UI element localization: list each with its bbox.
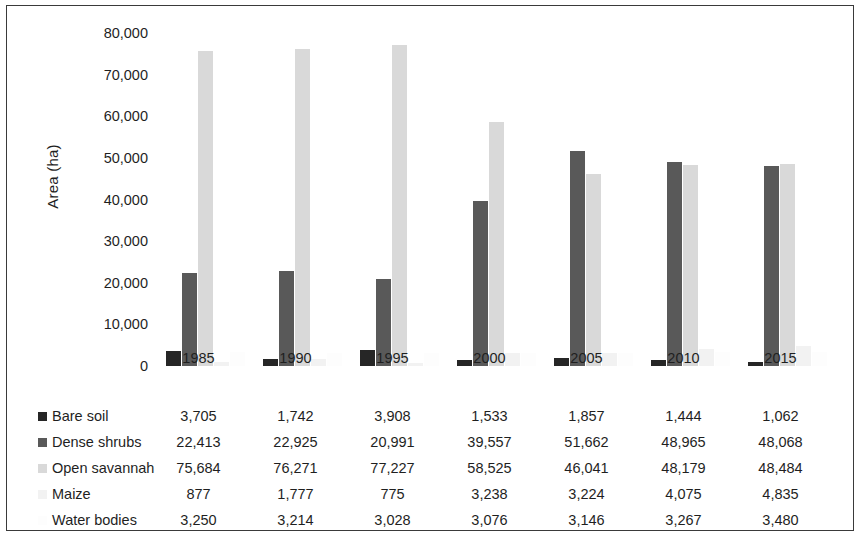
x-axis-tick-label: 2010 (635, 350, 732, 366)
legend-swatch-icon (38, 412, 47, 421)
bar-group: 1990 (247, 26, 344, 366)
bar (667, 162, 682, 366)
legend-entry: Open savannah (0, 455, 150, 481)
table-cell-value: 3,224 (538, 486, 635, 502)
table-cell-value: 3,238 (441, 486, 538, 502)
y-axis-tick-label: 30,000 (58, 233, 148, 249)
table-row: Dense shrubs22,41322,92520,99139,55751,6… (0, 429, 860, 455)
table-cell-value: 3,146 (538, 512, 635, 528)
table-cell-value: 775 (344, 486, 441, 502)
table-cell-value: 1,742 (247, 408, 344, 424)
table-cell-value: 48,965 (635, 434, 732, 450)
bar-group-bars (150, 41, 247, 366)
x-axis-tick-label: 1995 (344, 350, 441, 366)
legend-swatch-icon (38, 464, 47, 473)
table-cell-value: 3,480 (732, 512, 829, 528)
legend-entry: Maize (0, 481, 150, 507)
series-label: Dense shrubs (34, 434, 141, 450)
chart-figure: Area (ha) 80,00070,00060,00050,00040,000… (0, 0, 860, 538)
table-row: Bare soil3,7051,7423,9081,5331,8571,4441… (0, 403, 860, 429)
y-axis-tick-label: 80,000 (58, 25, 148, 41)
bar-group: 2005 (538, 26, 635, 366)
table-cell-value: 22,925 (247, 434, 344, 450)
bar-group: 2015 (732, 26, 829, 366)
legend-entry: Bare soil (0, 403, 150, 429)
table-cell-value: 1,533 (441, 408, 538, 424)
y-axis-tick-label: 0 (58, 358, 148, 374)
y-axis-tick-label: 20,000 (58, 275, 148, 291)
y-axis-tick-label: 10,000 (58, 316, 148, 332)
table-cell-value: 3,076 (441, 512, 538, 528)
bar (683, 165, 698, 366)
legend-swatch-icon (38, 490, 47, 499)
table-row: Open savannah75,68476,27177,22758,52546,… (0, 455, 860, 481)
bar-group-bars (635, 41, 732, 366)
bar-group-bars (344, 41, 441, 366)
table-cell-value: 20,991 (344, 434, 441, 450)
bar-group: 2010 (635, 26, 732, 366)
legend-entry: Dense shrubs (0, 429, 150, 455)
table-cell-value: 22,413 (150, 434, 247, 450)
x-axis-tick-label: 2000 (441, 350, 538, 366)
table-cell-value: 77,227 (344, 460, 441, 476)
table-cell-value: 877 (150, 486, 247, 502)
legend-entry: Water bodies (0, 507, 150, 533)
bar-group-bars (538, 41, 635, 366)
bar (392, 45, 407, 366)
bar (780, 164, 795, 366)
x-axis-tick-label: 2015 (732, 350, 829, 366)
legend-swatch-icon (38, 516, 47, 525)
plot-area: Area (ha) 80,00070,00060,00050,00040,000… (0, 0, 860, 390)
data-table: Bare soil3,7051,7423,9081,5331,8571,4441… (0, 390, 860, 538)
y-axis-ticks: 80,00070,00060,00050,00040,00030,00020,0… (58, 0, 148, 390)
table-cell-value: 51,662 (538, 434, 635, 450)
bar (198, 51, 213, 366)
table-cell-value: 76,271 (247, 460, 344, 476)
series-label: Open savannah (34, 460, 154, 476)
x-axis-tick-label: 1990 (247, 350, 344, 366)
table-row: Maize8771,7777753,2383,2244,0754,835 (0, 481, 860, 507)
table-cell-value: 3,214 (247, 512, 344, 528)
table-cell-value: 4,835 (732, 486, 829, 502)
bar-group-bars (247, 41, 344, 366)
bar-groups: 1985199019952000200520102015 (150, 0, 850, 390)
table-cell-value: 58,525 (441, 460, 538, 476)
bar (764, 166, 779, 366)
table-cell-value: 1,444 (635, 408, 732, 424)
bar (586, 174, 601, 366)
y-axis-tick-label: 70,000 (58, 67, 148, 83)
table-cell-value: 39,557 (441, 434, 538, 450)
y-axis-tick-label: 50,000 (58, 150, 148, 166)
bar (570, 151, 585, 366)
table-cell-value: 48,484 (732, 460, 829, 476)
table-row: Water bodies3,2503,2143,0283,0763,1463,2… (0, 507, 860, 533)
bar (295, 49, 310, 366)
y-axis-tick-label: 40,000 (58, 192, 148, 208)
table-cell-value: 3,028 (344, 512, 441, 528)
table-cell-value: 3,250 (150, 512, 247, 528)
table-cell-value: 3,267 (635, 512, 732, 528)
table-cell-value: 75,684 (150, 460, 247, 476)
bar (473, 201, 488, 366)
table-cell-value: 48,068 (732, 434, 829, 450)
table-cell-value: 48,179 (635, 460, 732, 476)
bar-group-bars (732, 41, 829, 366)
table-cell-value: 1,857 (538, 408, 635, 424)
table-cell-value: 3,705 (150, 408, 247, 424)
table-cell-value: 4,075 (635, 486, 732, 502)
bar (489, 122, 504, 366)
legend-swatch-icon (38, 438, 47, 447)
bar-group: 1995 (344, 26, 441, 366)
table-cell-value: 1,777 (247, 486, 344, 502)
bar-group: 1985 (150, 26, 247, 366)
table-cell-value: 1,062 (732, 408, 829, 424)
x-axis-tick-label: 1985 (150, 350, 247, 366)
bar-group-bars (441, 41, 538, 366)
series-label: Water bodies (34, 512, 137, 528)
table-cell-value: 46,041 (538, 460, 635, 476)
x-axis-tick-label: 2005 (538, 350, 635, 366)
table-cell-value: 3,908 (344, 408, 441, 424)
y-axis-tick-label: 60,000 (58, 108, 148, 124)
bar-group: 2000 (441, 26, 538, 366)
